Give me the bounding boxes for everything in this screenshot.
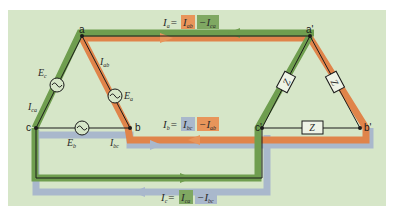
svg-text:Iab: Iab: [99, 56, 109, 68]
svg-text:Ib=: Ib=: [162, 118, 177, 131]
svg-text:Ea: Ea: [123, 90, 133, 102]
svg-text:b: b: [135, 122, 141, 133]
svg-text:Ia=: Ia=: [162, 16, 177, 29]
svg-text:a: a: [79, 24, 85, 35]
equation-ib: Ib= Ibc −Iab: [162, 117, 219, 131]
ac-source-b: [75, 121, 89, 135]
svg-text:a': a': [306, 24, 314, 35]
svg-text:c: c: [26, 122, 31, 133]
green-current-path: [35, 33, 314, 178]
circuit-wires: [36, 36, 360, 178]
ac-source-a: [108, 89, 122, 103]
three-phase-delta-circuit: Z Z Z a c b a' c' b' Ec Ea Eb Ica Iab Ib…: [0, 0, 395, 217]
ac-source-c: [50, 78, 64, 92]
equation-ia: Ia= Iab −Ica: [162, 15, 219, 29]
svg-text:b': b': [364, 122, 372, 133]
svg-text:Ec: Ec: [37, 67, 47, 79]
impedance-z3: Z: [302, 121, 323, 134]
svg-text:Ibc: Ibc: [109, 137, 119, 149]
equation-ic: Ic= Ica −Ibc: [160, 190, 217, 204]
current-arrows: [133, 28, 240, 197]
svg-text:c': c': [255, 122, 262, 133]
svg-text:Z: Z: [309, 122, 315, 133]
svg-text:Eb: Eb: [66, 137, 76, 149]
svg-text:Ica: Ica: [27, 101, 37, 113]
